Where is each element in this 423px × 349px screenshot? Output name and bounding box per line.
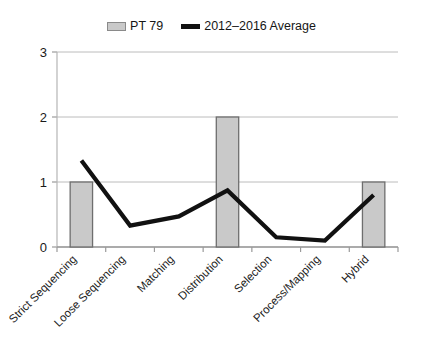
category-label: Distribution [176, 253, 225, 302]
bar [216, 117, 238, 247]
y-axis-ticks [52, 52, 57, 247]
chart-container: PT 79 2012–2016 Average 0123 Strict Sequ… [0, 0, 423, 349]
y-axis-tick-labels: 0123 [40, 45, 47, 255]
bar [362, 182, 384, 247]
category-label: Hybrid [339, 253, 371, 285]
bar [70, 182, 92, 247]
x-axis-category-labels: Strict SequencingLoose SequencingMatchin… [7, 253, 372, 329]
svg-text:2: 2 [40, 110, 47, 125]
category-label: Selection [232, 253, 274, 295]
plot-area: 0123 Strict SequencingLoose SequencingMa… [0, 0, 423, 349]
category-label: Matching [135, 253, 176, 294]
x-axis-ticks [57, 247, 398, 252]
svg-text:0: 0 [40, 240, 47, 255]
svg-text:1: 1 [40, 175, 47, 190]
svg-text:3: 3 [40, 45, 47, 60]
